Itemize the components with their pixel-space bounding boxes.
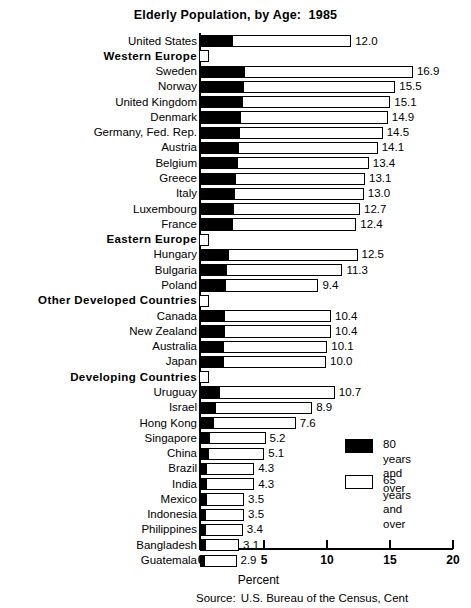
- bar-row-label: Hungary: [154, 247, 197, 261]
- group-header-label: Eastern Europe: [106, 232, 197, 246]
- bar-total-65-and-over: [200, 524, 243, 536]
- source-text: U.S. Bureau of the Census, Cent: [241, 592, 408, 604]
- bar-row: France12.4: [0, 217, 471, 232]
- bar-row: United States12.0: [0, 34, 471, 49]
- bar-total-65-and-over: [200, 432, 266, 444]
- group-header-stub: [200, 371, 209, 383]
- bar-row: Greece13.1: [0, 171, 471, 186]
- bar-row: United Kingdom15.1: [0, 95, 471, 110]
- group-header-label: Western Europe: [103, 49, 197, 63]
- bar-row-label: Poland: [161, 278, 197, 292]
- bar-value-label: 4.3: [258, 478, 274, 491]
- bar-segment-80-and-over: [201, 326, 225, 336]
- legend-swatch-65-and-over: [345, 475, 373, 489]
- x-axis-tick: [263, 540, 265, 549]
- legend-swatch-80-and-over: [345, 439, 373, 453]
- bar-row: Italy13.0: [0, 186, 471, 201]
- bar-row-label: Canada: [157, 309, 197, 323]
- bar-segment-80-and-over: [201, 265, 227, 275]
- bar-total-65-and-over: [200, 279, 318, 291]
- bar-total-65-and-over: [200, 218, 356, 230]
- bar-value-label: 13.0: [368, 187, 390, 200]
- bar-value-label: 7.6: [300, 417, 316, 430]
- bar-value-label: 15.5: [399, 80, 421, 93]
- bar-row-label: Luxembourg: [133, 202, 197, 216]
- bar-value-label: 5.1: [268, 447, 284, 460]
- bar-row-label: Indonesia: [147, 507, 197, 521]
- bar-row-label: Hong Kong: [139, 416, 197, 430]
- group-header-label: Other Developed Countries: [38, 293, 197, 307]
- group-header-row: Eastern Europe: [0, 232, 471, 247]
- bar-value-label: 10.1: [331, 340, 353, 353]
- x-axis-tick-label: 0: [181, 553, 221, 567]
- source-note: Source:U.S. Bureau of the Census, Cent: [196, 592, 408, 604]
- bar-segment-80-and-over: [201, 280, 226, 290]
- bar-total-65-and-over: [200, 417, 296, 429]
- bar-row: New Zealand10.4: [0, 324, 471, 339]
- bar-row-label: Philippines: [141, 522, 197, 536]
- bar-row-label: Brazil: [168, 461, 197, 475]
- bar-segment-80-and-over: [201, 82, 244, 92]
- bar-total-65-and-over: [200, 341, 327, 353]
- bar-value-label: 15.1: [394, 96, 416, 109]
- group-header-label: Developing Countries: [70, 370, 197, 384]
- bar-row: Denmark14.9: [0, 110, 471, 125]
- bar-row: Israel8.9: [0, 400, 471, 415]
- bar-segment-80-and-over: [201, 143, 239, 153]
- bar-row-label: United Kingdom: [115, 95, 197, 109]
- bar-total-65-and-over: [200, 35, 351, 47]
- bar-row-label: Bulgaria: [155, 263, 197, 277]
- bar-row-label: France: [161, 217, 197, 231]
- x-axis-tick: [200, 540, 202, 549]
- bar-total-65-and-over: [200, 310, 331, 322]
- bar-value-label: 16.9: [417, 65, 439, 78]
- bar-value-label: 3.5: [248, 508, 264, 521]
- group-header-row: Developing Countries: [0, 370, 471, 385]
- bar-row-label: Belgium: [155, 156, 197, 170]
- bar-value-label: 10.4: [335, 325, 357, 338]
- bar-segment-80-and-over: [201, 387, 220, 397]
- bar-row: Poland9.4: [0, 278, 471, 293]
- bar-total-65-and-over: [200, 448, 264, 460]
- bar-segment-80-and-over: [201, 67, 245, 77]
- bar-row-label: Norway: [158, 79, 197, 93]
- bar-total-65-and-over: [200, 142, 378, 154]
- bar-row-label: Austria: [161, 140, 197, 154]
- bar-value-label: 10.0: [330, 355, 352, 368]
- bar-row-label: Australia: [152, 339, 197, 353]
- bar-row: Belgium13.4: [0, 156, 471, 171]
- bar-segment-80-and-over: [201, 128, 240, 138]
- x-axis-tick: [326, 540, 328, 549]
- bar-row-label: New Zealand: [129, 324, 197, 338]
- source-label: Source:: [196, 592, 236, 604]
- bar-row-label: Mexico: [161, 492, 197, 506]
- bar-value-label: 12.5: [362, 248, 384, 261]
- bar-segment-80-and-over: [201, 494, 207, 504]
- bar-row: Japan10.0: [0, 354, 471, 369]
- bar-segment-80-and-over: [201, 36, 233, 46]
- bar-value-label: 14.1: [382, 141, 404, 154]
- bar-row: Bulgaria11.3: [0, 263, 471, 278]
- bar-segment-80-and-over: [201, 158, 238, 168]
- bar-row-label: Bangladesh: [136, 538, 197, 552]
- x-axis-label-text: Percent: [238, 573, 279, 587]
- bar-total-65-and-over: [200, 386, 335, 398]
- bar-value-label: 12.0: [355, 35, 377, 48]
- bar-row: Hong Kong7.6: [0, 416, 471, 431]
- bar-row: Hungary12.5: [0, 247, 471, 262]
- bar-row-label: Italy: [176, 186, 197, 200]
- bar-row: Uruguay10.7: [0, 385, 471, 400]
- x-axis-tick: [389, 540, 391, 549]
- bar-value-label: 13.4: [373, 157, 395, 170]
- bar-row: Bangladesh3.1: [0, 538, 471, 553]
- bar-row-label: Sweden: [155, 64, 197, 78]
- bar-total-65-and-over: [200, 509, 244, 521]
- group-header-stub: [200, 295, 209, 307]
- bar-segment-80-and-over: [201, 525, 206, 535]
- bar-value-label: 3.1: [243, 539, 259, 552]
- bar-total-65-and-over: [200, 356, 326, 368]
- bar-total-65-and-over: [200, 402, 312, 414]
- bar-segment-80-and-over: [201, 479, 207, 489]
- bar-row: Australia10.1: [0, 339, 471, 354]
- bar-row: Austria14.1: [0, 140, 471, 155]
